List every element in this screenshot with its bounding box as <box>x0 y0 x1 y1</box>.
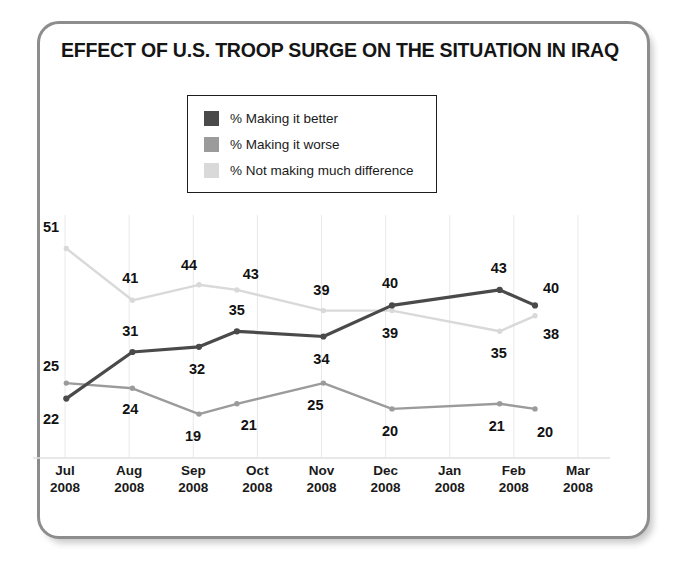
tick-month: Aug <box>114 462 144 479</box>
data-value-label: 40 <box>543 280 559 296</box>
data-point-marker[interactable] <box>234 328 240 334</box>
data-value-label: 32 <box>189 361 205 377</box>
chart-plot-area: 5125224131244432194335213934254039204335… <box>33 233 610 440</box>
tick-year: 2008 <box>563 479 593 496</box>
data-value-label: 43 <box>243 266 259 282</box>
tick-year: 2008 <box>371 479 401 496</box>
tick-year: 2008 <box>499 479 529 496</box>
x-axis-tick-dec: Dec2008 <box>371 462 401 496</box>
x-axis-tick-labels: Jul2008Aug2008Sep2008Oct2008Nov2008Dec20… <box>33 462 610 506</box>
data-value-label: 44 <box>181 257 197 273</box>
tick-month: Mar <box>563 462 593 479</box>
x-axis-tick-nov: Nov2008 <box>306 462 336 496</box>
data-point-marker[interactable] <box>320 333 326 339</box>
data-value-label: 19 <box>185 428 201 444</box>
tick-year: 2008 <box>306 479 336 496</box>
data-value-label: 35 <box>491 345 507 361</box>
x-axis-tick-aug: Aug2008 <box>114 462 144 496</box>
legend-swatch-icon <box>204 111 219 126</box>
data-point-marker[interactable] <box>64 246 69 251</box>
x-axis-tick-jul: Jul2008 <box>50 462 80 496</box>
legend-label: % Not making much difference <box>230 163 414 178</box>
data-point-marker[interactable] <box>532 313 537 318</box>
tick-month: Feb <box>499 462 529 479</box>
tick-month: Sep <box>178 462 208 479</box>
data-point-marker[interactable] <box>130 298 135 303</box>
legend-making-it-worse[interactable]: % Making it worse <box>188 131 436 157</box>
data-point-marker[interactable] <box>532 406 537 411</box>
data-point-marker[interactable] <box>234 401 239 406</box>
data-point-marker[interactable] <box>497 329 502 334</box>
data-value-label: 40 <box>382 275 398 291</box>
data-value-label: 24 <box>122 401 138 417</box>
data-point-marker[interactable] <box>321 308 326 313</box>
data-value-label: 20 <box>382 423 398 439</box>
tick-year: 2008 <box>50 479 80 496</box>
data-value-label: 39 <box>382 325 398 341</box>
data-value-label: 20 <box>537 424 553 440</box>
data-point-marker[interactable] <box>196 282 201 287</box>
x-axis-tick-sep: Sep2008 <box>178 462 208 496</box>
data-value-label: 25 <box>307 397 323 413</box>
data-value-label: 38 <box>543 326 559 342</box>
legend-label: % Making it better <box>230 111 338 126</box>
data-value-label: 22 <box>43 411 59 427</box>
x-axis-tick-jan: Jan2008 <box>435 462 465 496</box>
data-value-label: 21 <box>241 417 257 433</box>
tick-year: 2008 <box>114 479 144 496</box>
x-axis-tick-mar: Mar2008 <box>563 462 593 496</box>
data-point-marker[interactable] <box>389 308 394 313</box>
data-value-label: 43 <box>491 260 507 276</box>
data-value-label: 21 <box>489 418 505 434</box>
data-point-marker[interactable] <box>497 401 502 406</box>
data-point-marker[interactable] <box>196 411 201 416</box>
data-point-marker[interactable] <box>497 287 503 293</box>
tick-month: Jan <box>435 462 465 479</box>
tick-month: Jul <box>50 462 80 479</box>
data-point-marker[interactable] <box>63 396 69 402</box>
data-value-label: 25 <box>43 358 59 374</box>
tick-year: 2008 <box>242 479 272 496</box>
tick-year: 2008 <box>178 479 208 496</box>
data-point-marker[interactable] <box>389 406 394 411</box>
data-value-label: 31 <box>122 323 138 339</box>
data-point-marker[interactable] <box>321 380 326 385</box>
page-title: EFFECT OF U.S. TROOP SURGE ON THE SITUAT… <box>0 39 680 62</box>
data-point-marker[interactable] <box>129 349 135 355</box>
tick-year: 2008 <box>435 479 465 496</box>
data-point-marker[interactable] <box>234 287 239 292</box>
legend-label: % Making it worse <box>230 137 340 152</box>
tick-month: Dec <box>371 462 401 479</box>
x-axis-tick-oct: Oct2008 <box>242 462 272 496</box>
legend-swatch-icon <box>204 163 219 178</box>
data-point-marker[interactable] <box>532 302 538 308</box>
data-point-marker[interactable] <box>64 380 69 385</box>
legend-not-making-much-difference[interactable]: % Not making much difference <box>188 157 436 183</box>
data-point-marker[interactable] <box>196 344 202 350</box>
data-value-label: 35 <box>229 302 245 318</box>
legend-swatch-icon <box>204 137 219 152</box>
series-line <box>66 249 535 332</box>
tick-month: Oct <box>242 462 272 479</box>
tick-month: Nov <box>306 462 336 479</box>
data-value-label: 51 <box>43 219 59 235</box>
data-point-marker[interactable] <box>130 386 135 391</box>
x-axis-tick-feb: Feb2008 <box>499 462 529 496</box>
data-value-label: 41 <box>122 270 138 286</box>
chart-legend: % Making it better% Making it worse% Not… <box>187 95 437 193</box>
data-value-label: 34 <box>313 351 329 367</box>
legend-making-it-better[interactable]: % Making it better <box>188 105 436 131</box>
data-value-label: 39 <box>313 282 329 298</box>
data-point-marker[interactable] <box>389 302 395 308</box>
